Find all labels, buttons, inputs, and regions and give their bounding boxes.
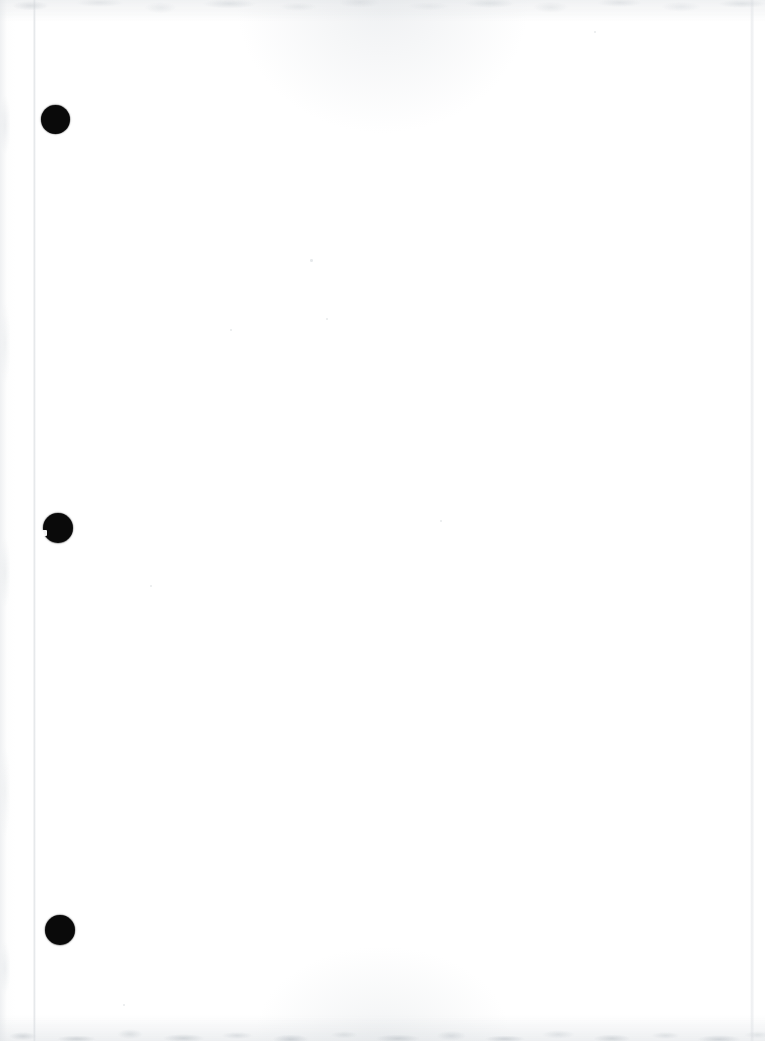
top-scan-noise-band <box>0 0 765 26</box>
dust-speck <box>310 259 313 262</box>
dust-speck <box>326 318 328 320</box>
bottom-punch-hole <box>45 915 75 945</box>
dust-speck-layer <box>0 0 765 1041</box>
bottom-scan-noise-band <box>0 1007 765 1041</box>
scanned-page <box>0 0 765 1041</box>
dust-speck <box>230 329 232 331</box>
dust-speck <box>440 520 442 522</box>
dust-speck <box>594 31 596 33</box>
top-punch-hole <box>41 105 70 134</box>
dust-speck <box>123 1004 125 1006</box>
paper-background <box>0 0 765 1041</box>
middle-punch-hole <box>43 513 73 543</box>
right-page-edge <box>750 0 754 1041</box>
dust-speck <box>150 585 152 587</box>
left-margin-shading <box>0 0 10 1041</box>
vertical-fold-line <box>33 0 36 1041</box>
